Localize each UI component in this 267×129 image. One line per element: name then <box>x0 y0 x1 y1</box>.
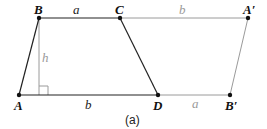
point-label-c: C <box>115 2 124 17</box>
segment-label-ca-prime: b <box>179 2 186 17</box>
point-d-dot <box>156 93 160 97</box>
right-angle-marker <box>39 86 48 95</box>
point-b-prime-dot <box>228 93 232 97</box>
segment-c-d <box>120 18 158 95</box>
point-a-dot <box>17 93 21 97</box>
figure-caption: (a) <box>125 113 140 127</box>
segment-label-db-prime: a <box>192 96 199 111</box>
height-label: h <box>42 50 49 65</box>
segment-label-ad: b <box>85 97 92 112</box>
point-label-a-prime: A′ <box>242 2 256 17</box>
point-label-a: A <box>13 98 23 113</box>
segment-a-prime-b-prime <box>230 18 248 95</box>
point-label-b: B <box>33 2 43 17</box>
segment-label-bc: a <box>73 2 80 17</box>
point-label-b-prime: B′ <box>224 98 238 113</box>
segment-a-b <box>19 18 39 95</box>
trapezoid-diagram: B C A′ A D B′ a b b a h (a) <box>0 0 267 129</box>
point-label-d: D <box>152 98 163 113</box>
